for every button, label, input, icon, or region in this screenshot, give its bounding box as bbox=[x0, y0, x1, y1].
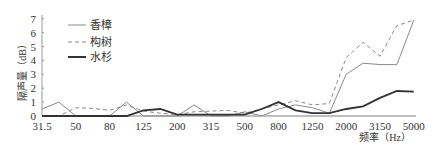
series-line-2 bbox=[42, 91, 414, 116]
y-tick-label: 7 bbox=[31, 13, 37, 25]
x-tick-label: 5000 bbox=[403, 120, 426, 132]
x-tick-label: 31.5 bbox=[32, 120, 52, 132]
x-tick-label: 2000 bbox=[335, 120, 358, 132]
x-tick-label: 50 bbox=[70, 120, 82, 132]
x-tick-label: 200 bbox=[169, 120, 186, 132]
series-line-0 bbox=[42, 20, 414, 116]
y-tick-label: 3 bbox=[31, 68, 37, 80]
legend-label-2: 水杉 bbox=[90, 50, 112, 63]
x-tick-label: 3150 bbox=[369, 120, 392, 132]
y-tick-label: 1 bbox=[31, 96, 37, 108]
x-tick-label: 800 bbox=[270, 120, 287, 132]
legend-label-1: 构树 bbox=[90, 35, 112, 48]
legend-label-0: 香樟 bbox=[90, 18, 112, 31]
x-ticks: 31.550801252003155008001250200031505000 bbox=[32, 120, 425, 132]
y-tick-label: 4 bbox=[31, 54, 37, 66]
x-axis-title: 频率（Hz） bbox=[359, 131, 411, 143]
y-axis-title: 隔声量（dB） bbox=[16, 39, 28, 101]
series-line-1 bbox=[42, 20, 414, 116]
legend: 香樟 构树 水杉 bbox=[68, 18, 112, 63]
x-tick-label: 125 bbox=[135, 120, 152, 132]
x-tick-label: 315 bbox=[203, 120, 220, 132]
x-tick-label: 1250 bbox=[301, 120, 324, 132]
y-tick-label: 6 bbox=[31, 27, 37, 39]
x-tick-label: 500 bbox=[237, 120, 254, 132]
x-tick-label: 80 bbox=[104, 120, 116, 132]
series-layer bbox=[42, 20, 414, 116]
noise-insulation-chart: 01234567 31.5508012520031550080012502000… bbox=[0, 0, 434, 150]
y-tick-label: 2 bbox=[31, 82, 37, 94]
y-tick-label: 5 bbox=[31, 41, 37, 53]
